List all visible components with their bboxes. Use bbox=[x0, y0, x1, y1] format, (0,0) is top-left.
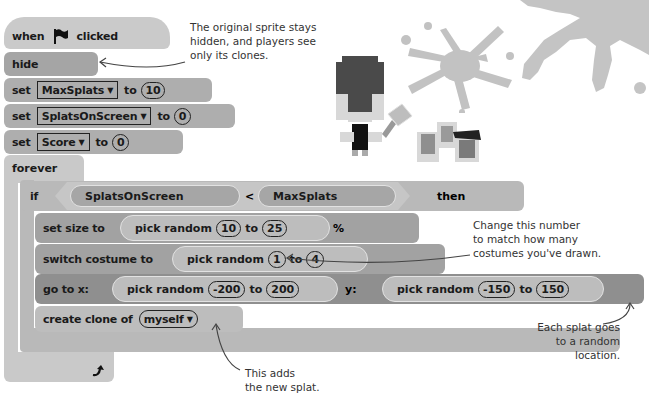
dropdown-arrow-icon: ▼ bbox=[140, 112, 146, 121]
hide-label: hide bbox=[12, 58, 38, 71]
variable-dropdown[interactable]: SplatsOnScreen▼ bbox=[37, 107, 152, 125]
max-input[interactable]: 25 bbox=[262, 220, 287, 237]
set-maxsplats-block[interactable]: set MaxSplats▼ to 10 bbox=[4, 78, 212, 102]
if-label: if bbox=[30, 190, 38, 203]
set-splatsonscreen-block[interactable]: set SplatsOnScreen▼ to 0 bbox=[4, 104, 235, 128]
x-max-input[interactable]: 200 bbox=[266, 281, 299, 298]
clone-annotation: This adds the new splat. bbox=[245, 366, 320, 393]
pick-random-size-reporter[interactable]: pick random 10 to 25 bbox=[120, 215, 330, 241]
clicked-label: clicked bbox=[77, 30, 119, 43]
forever-block-arm bbox=[4, 180, 18, 355]
min-input[interactable]: 10 bbox=[216, 220, 241, 237]
set-size-label: set size to bbox=[43, 222, 105, 235]
less-than-symbol: < bbox=[245, 190, 254, 203]
costume-annotation: Change this number to match how many cos… bbox=[473, 218, 601, 260]
splatsonscreen-reporter[interactable]: SplatsOnScreen bbox=[70, 185, 240, 207]
value-input[interactable]: 0 bbox=[112, 134, 129, 151]
pick-random-x-reporter[interactable]: pick random -200 to 200 bbox=[112, 276, 338, 302]
min-input[interactable]: 1 bbox=[268, 251, 286, 268]
y-max-input[interactable]: 150 bbox=[536, 281, 569, 298]
y-label: y: bbox=[345, 283, 357, 296]
variable-dropdown[interactable]: MaxSplats▼ bbox=[37, 81, 118, 99]
create-clone-block[interactable]: create clone of myself▼ bbox=[35, 306, 243, 332]
clone-target-dropdown[interactable]: myself▼ bbox=[139, 310, 198, 328]
maxsplats-reporter[interactable]: MaxSplats bbox=[258, 185, 396, 207]
percent-label: % bbox=[333, 222, 344, 235]
dropdown-arrow-icon: ▼ bbox=[187, 315, 193, 324]
variable-dropdown[interactable]: Score▼ bbox=[37, 133, 90, 151]
set-label: set bbox=[12, 84, 31, 97]
paint-splat-illustration bbox=[400, 18, 520, 113]
loop-arrow-icon bbox=[92, 362, 106, 381]
y-min-input[interactable]: -150 bbox=[478, 281, 516, 298]
pick-random-costume-reporter[interactable]: pick random 1 to 4 bbox=[172, 246, 368, 272]
location-annotation: Each splat goes to a random location. bbox=[520, 320, 620, 362]
when-flag-clicked-hat-block[interactable]: when clicked bbox=[4, 17, 170, 49]
value-input[interactable]: 10 bbox=[141, 82, 166, 99]
value-input[interactable]: 0 bbox=[174, 108, 191, 125]
dropdown-arrow-icon: ▼ bbox=[79, 138, 85, 147]
painter-character-illustration bbox=[328, 52, 418, 162]
forever-label: forever bbox=[12, 162, 57, 175]
large-paint-splat-illustration bbox=[500, 0, 649, 100]
hide-annotation: The original sprite stays hidden, and pl… bbox=[190, 20, 316, 62]
set-label: set bbox=[12, 110, 31, 123]
hide-block[interactable]: hide bbox=[4, 52, 98, 76]
then-label: then bbox=[437, 190, 465, 203]
switch-costume-label: switch costume to bbox=[43, 253, 153, 266]
set-score-block[interactable]: set Score▼ to 0 bbox=[4, 130, 183, 154]
pick-random-y-reporter[interactable]: pick random -150 to 150 bbox=[382, 276, 604, 302]
go-to-x-label: go to x: bbox=[43, 283, 89, 296]
green-flag-icon bbox=[53, 28, 69, 44]
max-input[interactable]: 4 bbox=[306, 251, 324, 268]
dropdown-arrow-icon: ▼ bbox=[107, 86, 113, 95]
set-label: set bbox=[12, 136, 31, 149]
create-clone-label: create clone of bbox=[43, 313, 133, 326]
x-min-input[interactable]: -200 bbox=[208, 281, 246, 298]
paint-pots-illustration bbox=[415, 120, 485, 165]
when-label: when bbox=[12, 30, 45, 43]
